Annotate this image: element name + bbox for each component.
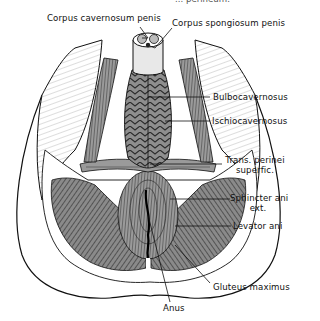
- label-corpus-spongiosum: Corpus spongiosum penis: [172, 18, 285, 28]
- penis-cross-section: [133, 33, 163, 75]
- corpus-spongiosum: [146, 43, 150, 47]
- corpus-cavernosum-left: [138, 35, 147, 44]
- label-sphincter-ani-line2: ext.: [230, 203, 286, 213]
- label-trans-perinei: Trans. perinei superfic.: [224, 155, 286, 175]
- label-anus: Anus: [163, 303, 185, 313]
- corpus-cavernosum-right: [150, 35, 159, 44]
- label-levator-ani: Levator ani: [233, 221, 282, 231]
- label-sphincter-ani: Sphincter ani ext.: [230, 193, 286, 213]
- label-gluteus-maximus: Gluteus maximus: [213, 282, 290, 292]
- label-trans-perinei-line2: superfic.: [224, 165, 286, 175]
- label-bulbocavernosus: Bulbocavernosus: [213, 92, 288, 102]
- label-corpus-cavernosum: Corpus cavernosum penis: [47, 13, 161, 23]
- label-trans-perinei-line1: Trans. perinei: [224, 155, 286, 165]
- label-ischiocavernosus: Ischiocavernosus: [212, 116, 287, 126]
- label-sphincter-ani-line1: Sphincter ani: [230, 193, 286, 203]
- bulbocavernosus: [125, 70, 172, 168]
